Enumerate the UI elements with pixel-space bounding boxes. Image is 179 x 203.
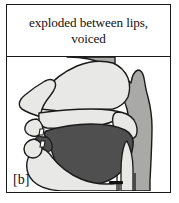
diagram-area: [b] — [7, 57, 170, 192]
lower-lip — [24, 139, 42, 158]
upper-teeth — [39, 129, 44, 135]
phoneme-label: [b] — [13, 173, 29, 187]
figure-card: exploded between lips, voiced — [6, 4, 171, 193]
caption-bar: exploded between lips, voiced — [7, 5, 170, 57]
figure-caption: exploded between lips, voiced — [24, 15, 153, 46]
voicing-bar — [109, 181, 123, 184]
lower-teeth — [40, 141, 45, 147]
vocal-tract-diagram — [7, 57, 169, 191]
